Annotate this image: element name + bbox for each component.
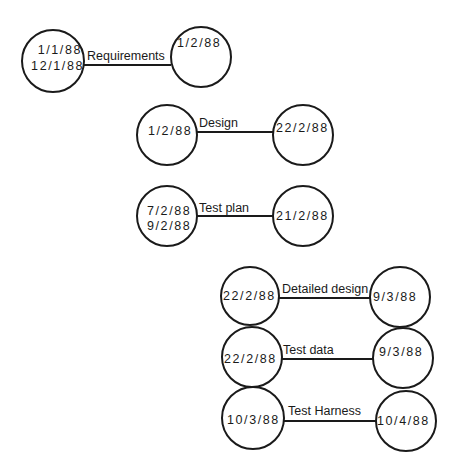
- activity-test-harness: Test Harness 10/3/88 10/4/88: [222, 387, 436, 451]
- activity-test-data: Test data 22/2/88 9/3/88: [222, 327, 433, 388]
- node-date: 22/2/88: [224, 352, 277, 366]
- node-date: 9/3/88: [379, 345, 423, 359]
- activity-requirements: Requirements 1/1/88 12/1/88 1/2/88: [22, 27, 231, 92]
- activity-label: Test Harness: [288, 404, 361, 418]
- node-date: 12/1/88: [31, 59, 84, 73]
- activity-label: Test plan: [199, 201, 249, 215]
- node-date: 10/3/88: [227, 413, 280, 427]
- activity-detailed-design: Detailed design 22/2/88 9/3/88: [221, 267, 430, 327]
- node-date: 9/2/88: [147, 219, 191, 233]
- activity-network-diagram: Requirements 1/1/88 12/1/88 1/2/88 Desig…: [0, 0, 457, 467]
- activity-label: Detailed design: [282, 282, 368, 296]
- node-date: 9/3/88: [373, 290, 417, 304]
- activity-test-plan: Test plan 7/2/88 9/2/88 21/2/88: [137, 186, 333, 246]
- node-date: 1/2/88: [148, 124, 192, 138]
- node-design-end: [273, 105, 333, 165]
- node-date: 7/2/88: [147, 204, 191, 218]
- activity-design: Design 1/2/88 22/2/88: [137, 105, 333, 165]
- node-date: 21/2/88: [276, 209, 329, 223]
- activity-label: Design: [199, 116, 238, 130]
- activity-label: Requirements: [87, 49, 165, 63]
- node-date: 10/4/88: [377, 414, 430, 428]
- node-date: 1/1/88: [38, 43, 82, 57]
- node-date: 22/2/88: [276, 121, 329, 135]
- node-date: 1/2/88: [177, 36, 221, 50]
- activity-label: Test data: [283, 343, 334, 357]
- node-date: 22/2/88: [223, 289, 276, 303]
